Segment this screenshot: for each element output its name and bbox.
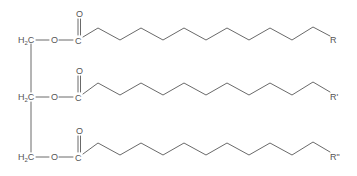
fatty-acid-chain-2: H2C O C O R' — [18, 66, 338, 103]
alkyl-chain-2 — [83, 82, 330, 95]
terminal-group-r-double-prime: R" — [330, 152, 340, 162]
triglyceride-diagram: H2C O C O R H2C O C O R' H2C — [0, 0, 357, 176]
ester-oxygen-2: O — [51, 92, 58, 102]
terminal-group-r-prime: R' — [330, 92, 338, 102]
carbonyl-carbon-1: C — [75, 36, 82, 46]
backbone-carbon-2-label: H2C — [18, 92, 35, 103]
backbone-carbon-1-label: H2C — [18, 35, 35, 46]
alkyl-chain-1 — [83, 27, 330, 40]
carbonyl-carbon-2: C — [75, 93, 82, 103]
fatty-acid-chain-1: H2C O C O R — [18, 9, 337, 46]
terminal-group-r: R — [330, 35, 337, 45]
carbonyl-oxygen-3: O — [76, 126, 83, 136]
backbone-carbon-3-label: H2C — [18, 152, 35, 163]
carbonyl-oxygen-1: O — [76, 9, 83, 19]
ester-oxygen-1: O — [51, 35, 58, 45]
carbonyl-carbon-3: C — [75, 153, 82, 163]
alkyl-chain-3 — [83, 142, 330, 155]
carbonyl-oxygen-2: O — [76, 66, 83, 76]
fatty-acid-chain-3: H2C O C O R" — [18, 126, 340, 163]
ester-oxygen-3: O — [51, 152, 58, 162]
